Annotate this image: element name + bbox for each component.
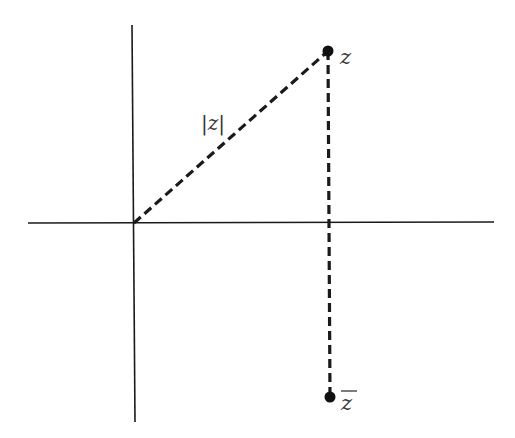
modulus-segment [134, 51, 328, 223]
real-axis [28, 222, 494, 223]
point-z-conjugate [325, 392, 336, 403]
point-z [323, 46, 334, 57]
complex-plane-diagram: z |z| z [0, 0, 515, 438]
label-z: z [339, 45, 352, 69]
label-modulus: |z| [201, 111, 225, 136]
conjugate-segment [328, 51, 330, 397]
label-z-conjugate: z [340, 391, 357, 415]
label-z-conjugate-letter: z [340, 391, 353, 415]
